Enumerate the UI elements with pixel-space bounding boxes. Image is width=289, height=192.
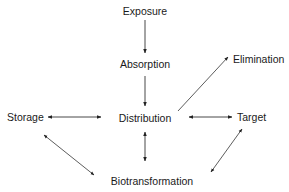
arrow-distribution-to-elimination [178,57,228,111]
node-storage: Storage [7,111,44,123]
node-distribution: Distribution [119,112,172,124]
node-biotransformation: Biotransformation [111,175,193,187]
arrow-storage-biotransformation [44,135,94,175]
arrow-target-biotransformation [211,129,242,172]
node-elimination: Elimination [233,53,284,65]
diagram-arrows [0,0,289,192]
node-exposure: Exposure [123,5,167,17]
node-target: Target [237,111,266,123]
node-absorption: Absorption [120,58,170,70]
toxicokinetics-diagram: Exposure Absorption Elimination Storage … [0,0,289,192]
